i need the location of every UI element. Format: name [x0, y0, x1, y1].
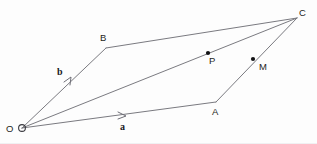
- label-b: B: [100, 33, 106, 43]
- bottom-edge-divider: [0, 143, 317, 144]
- vector-a-arrow-icon: [118, 112, 126, 119]
- label-c: C: [299, 8, 306, 18]
- segment-b-c: [106, 18, 297, 48]
- segment-a-c: [216, 18, 297, 102]
- segment-o-a: [22, 102, 216, 128]
- segment-o-c-diagonal: [22, 18, 297, 128]
- segment-o-b: [22, 48, 106, 128]
- vector-diagram-canvas: O A B C P M a b: [0, 0, 317, 144]
- label-vector-b: b: [57, 67, 63, 77]
- label-vector-a: a: [120, 122, 125, 132]
- label-p: P: [209, 56, 215, 66]
- label-o: O: [6, 124, 13, 134]
- geometry-svg: [0, 0, 317, 144]
- point-m-marker: [251, 57, 255, 61]
- vector-b-arrow-icon: [64, 77, 71, 85]
- label-m: M: [259, 62, 267, 72]
- label-a: A: [212, 107, 218, 117]
- diagram-points: [19, 51, 255, 131]
- parallelogram-edges: [22, 18, 297, 128]
- vector-arrow-markers: [64, 77, 126, 119]
